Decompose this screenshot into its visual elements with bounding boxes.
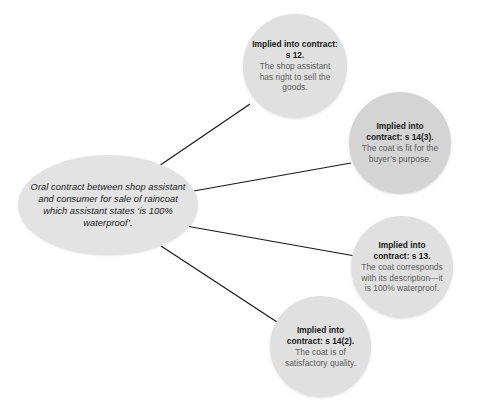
- implied-term-title-s14-2: Implied into contract: s 14(2).: [279, 325, 362, 347]
- implied-term-body-s13: The coat corresponds with its descriptio…: [360, 262, 444, 294]
- implied-term-title-s13: Implied into contract: s 13.: [360, 240, 444, 262]
- oral-contract-source-node: Oral contract between shop assistant and…: [18, 155, 198, 255]
- implied-term-title-s14-3: Implied into contract: s 14(3).: [358, 121, 442, 143]
- implied-term-body-s14-2: The coat is of satisfactory quality.: [279, 347, 362, 369]
- connector-source-to-s13: [186, 226, 372, 259]
- implied-term-node-s13: Implied into contract: s 13. The coat co…: [351, 216, 453, 318]
- implied-term-node-s14-2: Implied into contract: s 14(2). The coat…: [270, 296, 371, 397]
- implied-term-node-s12: Implied into contract: s 12. The shop as…: [243, 14, 347, 118]
- implied-term-node-s14-3: Implied into contract: s 14(3). The coat…: [349, 92, 451, 194]
- connector-source-to-s12: [156, 104, 250, 168]
- implied-term-title-s12: Implied into contract: s 12.: [252, 39, 338, 61]
- implied-term-body-s14-3: The coat is fit for the buyer’s purpose.: [358, 143, 442, 165]
- implied-term-content-s14-3: Implied into contract: s 14(3). The coat…: [349, 121, 451, 165]
- implied-term-content-s13: Implied into contract: s 13. The coat co…: [351, 240, 453, 294]
- implied-term-body-s12: The shop assistant has right to sell the…: [252, 61, 338, 93]
- implied-term-content-s12: Implied into contract: s 12. The shop as…: [243, 39, 347, 93]
- connector-source-to-s14-2: [161, 246, 277, 322]
- oral-contract-source-text: Oral contract between shop assistant and…: [18, 181, 198, 229]
- connector-source-to-s14-3: [188, 163, 351, 192]
- implied-term-content-s14-2: Implied into contract: s 14(2). The coat…: [270, 325, 371, 369]
- implied-terms-diagram: Oral contract between shop assistant and…: [0, 0, 488, 412]
